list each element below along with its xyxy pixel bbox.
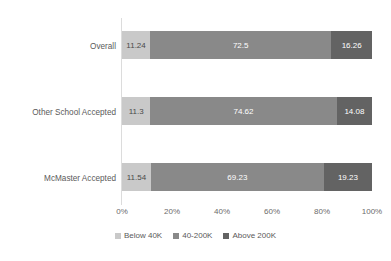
- legend-label: Below 40K: [124, 231, 162, 240]
- bar-segment-40-200k[interactable]: 72.5: [150, 31, 331, 59]
- x-tick-80: 80%: [314, 207, 330, 216]
- x-tick-20: 20%: [164, 207, 180, 216]
- x-tick-0: 0%: [116, 207, 128, 216]
- bar-segment-40-200k[interactable]: 69.23: [151, 163, 324, 191]
- legend-swatch-icon: [115, 233, 121, 239]
- bar-segment-below-40k[interactable]: 11.24: [122, 31, 150, 59]
- x-tick-40: 40%: [214, 207, 230, 216]
- bar-row-other-school-accepted: 11.3 74.62 14.08: [122, 97, 372, 125]
- bar-segment-40-200k[interactable]: 74.62: [150, 97, 337, 125]
- legend-item-below-40k[interactable]: Below 40K: [115, 231, 162, 240]
- bar-segment-below-40k[interactable]: 11.3: [122, 97, 150, 125]
- legend-item-above-200k[interactable]: Above 200K: [223, 231, 276, 240]
- x-tick-100: 100%: [362, 207, 382, 216]
- x-tick-60: 60%: [264, 207, 280, 216]
- bar-row-mcmaster-accepted: 11.54 69.23 19.23: [122, 163, 372, 191]
- bar-segment-above-200k[interactable]: 19.23: [324, 163, 372, 191]
- category-label-overall: Overall: [0, 42, 116, 52]
- category-label-other-school-accepted: Other School Accepted: [0, 108, 116, 118]
- bar-row-overall: 11.24 72.5 16.26: [122, 31, 372, 59]
- value-axis-ticks: 0% 20% 40% 60% 80% 100%: [122, 207, 372, 219]
- legend-swatch-icon: [173, 233, 179, 239]
- legend-swatch-icon: [223, 233, 229, 239]
- legend-item-40-200k[interactable]: 40-200K: [173, 231, 212, 240]
- bar-segment-above-200k[interactable]: 14.08: [337, 97, 372, 125]
- bar-segment-above-200k[interactable]: 16.26: [331, 31, 372, 59]
- category-label-mcmaster-accepted: McMaster Accepted: [0, 174, 116, 184]
- bar-segment-below-40k[interactable]: 11.54: [122, 163, 151, 191]
- legend-label: Above 200K: [232, 231, 276, 240]
- stacked-bar-chart: Overall Other School Accepted McMaster A…: [0, 0, 391, 261]
- legend: Below 40K 40-200K Above 200K: [0, 231, 391, 240]
- legend-label: 40-200K: [182, 231, 212, 240]
- plot-area: 11.24 72.5 16.26 11.3 74.62 14.08 11.54 …: [122, 18, 372, 205]
- category-axis-labels: Overall Other School Accepted McMaster A…: [0, 0, 116, 205]
